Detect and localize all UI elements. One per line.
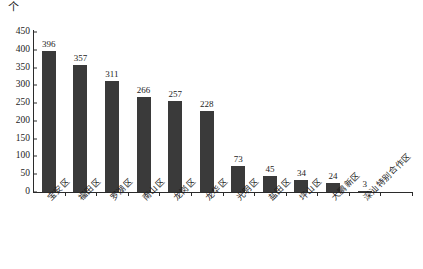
y-tick-mark (33, 156, 37, 157)
x-tick-mark (349, 192, 350, 196)
x-tick-mark (191, 192, 192, 196)
x-tick-mark (65, 192, 66, 196)
y-tick-mark (33, 192, 37, 193)
y-tick-mark (33, 120, 37, 121)
x-tick-mark (96, 192, 97, 196)
bar[interactable] (105, 81, 119, 192)
y-tick-label: 200 (16, 116, 30, 126)
bar-value-label: 357 (66, 54, 94, 63)
x-tick-mark (254, 192, 255, 196)
bar-value-label: 228 (193, 100, 221, 109)
bar-value-label: 266 (130, 86, 158, 95)
y-tick-label: 100 (16, 152, 30, 162)
y-tick-label: 0 (25, 187, 30, 197)
y-tick-label: 150 (16, 134, 30, 144)
bar[interactable] (137, 97, 151, 192)
x-tick-mark (128, 192, 129, 196)
x-tick-mark (159, 192, 160, 196)
x-tick-mark (412, 192, 413, 196)
bar-value-label: 45 (256, 165, 284, 174)
bar-value-label: 311 (98, 70, 126, 79)
y-tick-label: 250 (16, 98, 30, 108)
bar-value-label: 396 (35, 40, 63, 49)
y-tick-label: 50 (21, 169, 31, 179)
x-tick-mark (380, 192, 381, 196)
y-tick-mark (33, 103, 37, 104)
y-tick-label: 450 (16, 27, 30, 37)
bar-value-label: 257 (161, 90, 189, 99)
y-tick-mark (33, 67, 37, 68)
x-tick-mark (223, 192, 224, 196)
y-axis-ticks: 050100150200250300350400450 (0, 0, 30, 269)
bar-chart: 个 050100150200250300350400450 3963573112… (0, 0, 423, 269)
x-tick-mark (317, 192, 318, 196)
y-tick-label: 400 (16, 45, 30, 55)
x-tick-mark (286, 192, 287, 196)
y-tick-mark (33, 85, 37, 86)
y-tick-label: 350 (16, 63, 30, 73)
bar-value-label: 73 (224, 155, 252, 164)
bar[interactable] (168, 101, 182, 192)
bar[interactable] (200, 111, 214, 192)
bar-value-label: 34 (287, 169, 315, 178)
y-tick-mark (33, 49, 37, 50)
y-tick-label: 300 (16, 81, 30, 91)
bar[interactable] (42, 51, 56, 192)
y-tick-mark (33, 32, 37, 33)
bar[interactable] (73, 65, 87, 192)
y-tick-mark (33, 138, 37, 139)
y-tick-mark (33, 174, 37, 175)
bars-layer: 396357311266257228734534243 (33, 32, 411, 192)
